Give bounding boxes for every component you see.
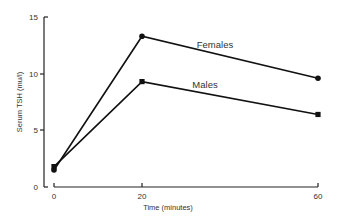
line-chart: 051015 02060 Serum TSH (mu/l) Time (minu… bbox=[0, 0, 339, 223]
x-axis-label: Time (minutes) bbox=[143, 203, 193, 212]
x-tick-label: 20 bbox=[138, 192, 147, 201]
x-tick-label: 60 bbox=[314, 192, 323, 201]
x-tick-label: 0 bbox=[52, 192, 57, 201]
data-point bbox=[51, 164, 56, 169]
legend-label-males: Males bbox=[192, 79, 218, 90]
x-axis bbox=[54, 183, 318, 187]
y-tick-labels: 051015 bbox=[29, 13, 38, 192]
x-tick-labels: 02060 bbox=[52, 192, 323, 201]
series-line-females bbox=[54, 36, 318, 170]
series-line-males bbox=[54, 82, 318, 167]
y-tick-label: 0 bbox=[34, 183, 39, 192]
series-lines bbox=[51, 33, 321, 172]
y-axis-label: Serum TSH (mu/l) bbox=[15, 71, 24, 132]
y-tick-label: 15 bbox=[29, 13, 38, 22]
legend-label-females: Females bbox=[197, 39, 234, 50]
y-tick-label: 5 bbox=[34, 126, 39, 135]
data-point bbox=[315, 112, 320, 117]
y-tick-label: 10 bbox=[29, 70, 38, 79]
y-axis bbox=[40, 17, 48, 187]
data-point bbox=[139, 79, 144, 84]
data-point bbox=[315, 75, 321, 81]
data-point bbox=[139, 33, 145, 39]
